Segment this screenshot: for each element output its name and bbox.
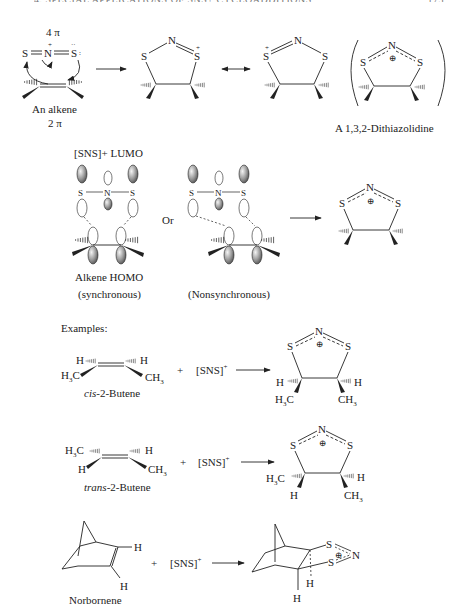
synchronous-label: (synchronous) [78, 288, 141, 301]
svg-text:CH3: CH3 [145, 371, 164, 386]
svg-text:H: H [276, 376, 284, 388]
svg-text:N: N [388, 39, 396, 51]
plus-sign-2: + [180, 456, 186, 468]
svg-text:CH3: CH3 [344, 489, 363, 504]
svg-text:S: S [347, 439, 353, 451]
svg-text:H: H [354, 376, 362, 388]
svg-text:S: S [322, 50, 328, 62]
svg-text:··: ·· [71, 41, 76, 49]
norbornene-product: S S N ⊕ H H [252, 524, 360, 604]
orbital-product-ring: S N S ⊕ [339, 181, 402, 245]
homo-label: Alkene HOMO [75, 271, 143, 283]
nonsynchronous-orbitals: S N S [188, 165, 280, 264]
svg-text:H: H [120, 580, 128, 592]
svg-text:H3C: H3C [65, 444, 84, 459]
svg-text:⊕: ⊕ [367, 196, 375, 206]
synchronous-orbitals: S N S [72, 165, 144, 264]
svg-text:S: S [290, 439, 296, 451]
svg-text:S: S [417, 56, 423, 68]
svg-text:N: N [104, 188, 111, 198]
svg-text:H: H [293, 592, 301, 604]
svg-text:H: H [357, 471, 365, 483]
trans-2-butene: H3C H H CH3 trans-2-Butene [65, 444, 167, 493]
dithiazolidine-label: A 1,3,2-Dithiazolidine [335, 122, 434, 134]
svg-text:S: S [328, 556, 334, 568]
resonance-structure-1: S N S + [141, 34, 204, 99]
svg-text:H: H [134, 541, 142, 553]
nonsynchronous-label: (Nonsynchronous) [188, 288, 270, 301]
svg-text:H: H [306, 577, 314, 589]
svg-text:+: + [196, 44, 200, 52]
svg-text:CH3: CH3 [338, 393, 357, 408]
svg-text:H: H [145, 444, 153, 456]
sns-reagent-2: [SNS]+ [198, 455, 230, 468]
svg-text:S: S [345, 340, 351, 352]
svg-text:H: H [78, 463, 86, 475]
svg-text:H3C: H3C [61, 369, 80, 384]
svg-text:N: N [366, 181, 374, 193]
cis-butene-label: cis-2-Butene [84, 387, 140, 399]
svg-text:H3C: H3C [266, 472, 285, 487]
sns-reagent-3: [SNS]+ [170, 556, 202, 569]
svg-text:S: S [189, 188, 194, 198]
sns-reagent-1: [SNS]+ [196, 363, 228, 376]
resonance-structure-2: S + N S [263, 34, 328, 99]
svg-text:⊕: ⊕ [319, 438, 327, 448]
svg-text:⊕: ⊕ [335, 550, 343, 560]
svg-text::: : [79, 49, 81, 57]
svg-text:H3C: H3C [275, 393, 294, 408]
lumo-label: [SNS]+ LUMO [74, 147, 143, 159]
svg-text:S: S [141, 50, 147, 62]
norbornene-label: Norbornene [69, 594, 122, 606]
svg-text:H: H [140, 354, 148, 366]
svg-text:CH3: CH3 [148, 463, 167, 478]
svg-text:N: N [215, 188, 222, 198]
svg-text:N: N [318, 423, 326, 435]
svg-text:S: S [130, 188, 135, 198]
trans-product: S N S ⊕ H3C H H CH3 [266, 423, 365, 504]
examples-heading: Examples: [61, 322, 107, 334]
mechanism-reactants: 4 π S N + S ·· : An alkene 2 π [22, 26, 84, 129]
delocalized-structure: S N S ⊕ [351, 39, 445, 106]
cis-product: S N S ⊕ H H H3C CH3 [275, 325, 362, 408]
norbornene: H H Norbornene [62, 521, 142, 606]
svg-text:N: N [315, 325, 323, 337]
svg-text:S: S [287, 340, 293, 352]
reaction-diagram: 4 π S N + S ·· : An alkene 2 π S N S + [0, 0, 458, 611]
plus-sign-1: + [177, 364, 183, 376]
svg-text:S: S [326, 538, 332, 550]
svg-text:S: S [339, 197, 345, 209]
svg-text:+: + [265, 44, 269, 52]
svg-text:S: S [22, 47, 28, 59]
svg-text:S: S [395, 197, 401, 209]
four-pi-label: 4 π [46, 26, 60, 38]
svg-text:An alkene: An alkene [32, 103, 77, 115]
svg-text:S: S [241, 188, 246, 198]
svg-text:+: + [48, 41, 52, 49]
svg-text:⊕: ⊕ [316, 339, 324, 349]
svg-text:H: H [290, 489, 298, 501]
svg-text:N: N [294, 34, 302, 46]
svg-text:N: N [168, 34, 176, 46]
svg-text:N: N [352, 549, 360, 561]
svg-text:S: S [360, 56, 366, 68]
svg-text:S: S [78, 188, 83, 198]
trans-butene-label: trans-2-Butene [84, 481, 151, 493]
plus-sign-3: + [151, 557, 157, 569]
cis-2-butene: H H H3C CH3 cis-2-Butene [61, 354, 164, 399]
svg-text:H: H [76, 354, 84, 366]
or-label: Or [162, 214, 174, 226]
svg-text:⊕: ⊕ [389, 53, 397, 63]
svg-text:2 π: 2 π [48, 117, 62, 129]
